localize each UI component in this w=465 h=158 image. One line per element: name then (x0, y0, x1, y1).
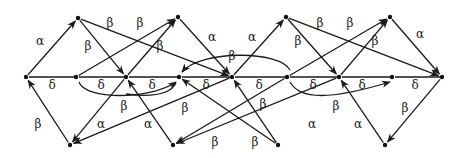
edge-label: β (212, 135, 219, 149)
edge-label: β (260, 97, 267, 111)
edge-label: β (402, 101, 409, 115)
edge-label: δ (97, 78, 104, 92)
node-B3 (383, 143, 387, 147)
node-M8 (440, 75, 444, 79)
edge-label: α (208, 30, 216, 44)
edge-label: β (107, 16, 114, 30)
edge-label: β (137, 16, 144, 30)
node-M4 (230, 75, 234, 79)
edge-layer (28, 18, 442, 143)
edge-label: α (248, 30, 256, 44)
edge-label: α (36, 34, 44, 48)
curved-edge-label: β (333, 99, 340, 113)
node-T3 (388, 15, 392, 19)
edge-M2-T1 (128, 20, 175, 75)
edge-label: δ (202, 78, 209, 92)
edge-label: α (144, 117, 152, 131)
edge-label: α (308, 117, 316, 131)
edge-label: δ (48, 78, 55, 92)
edge-label: δ (411, 78, 418, 92)
edge-label: β (372, 34, 379, 48)
edge-label: β (252, 135, 259, 149)
node-B0 (68, 143, 72, 147)
node-T1 (176, 15, 180, 19)
edge-label: β (85, 39, 92, 53)
edge-label: δ (255, 78, 262, 92)
node-M0 (24, 75, 28, 79)
node-M6 (337, 75, 341, 79)
node-M7 (390, 75, 394, 79)
edge-M4-T2 (234, 20, 283, 75)
node-M3 (177, 75, 181, 79)
node-B2 (276, 143, 280, 147)
curved-edge-label: β (121, 99, 128, 113)
node-B1 (171, 143, 175, 147)
edge-T1-M4 (180, 19, 229, 74)
edge-label: β (157, 39, 164, 53)
node-T2 (284, 15, 288, 19)
node-T0 (76, 16, 80, 20)
edge-label: δ (358, 78, 365, 92)
curved-edge-label: β (229, 49, 236, 63)
edge-label: δ (148, 78, 155, 92)
edge-label: α (354, 117, 362, 131)
edge-label: β (182, 101, 189, 115)
edge-label: α (97, 117, 105, 131)
edge-label: β (347, 16, 354, 30)
edge-label: β (317, 16, 324, 30)
edge-label: β (35, 117, 42, 131)
node-M5 (285, 75, 289, 79)
curved-edge (290, 82, 390, 96)
edge-label: β (295, 34, 302, 48)
edge-label: δ (309, 78, 316, 92)
node-M2 (124, 75, 128, 79)
edge-M5-B1 (176, 79, 284, 143)
node-M1 (74, 75, 78, 79)
edge-label: α (416, 27, 424, 41)
graph-diagram: αβδδδδδδδδββββααββββαβααββββααβββ (0, 0, 465, 158)
